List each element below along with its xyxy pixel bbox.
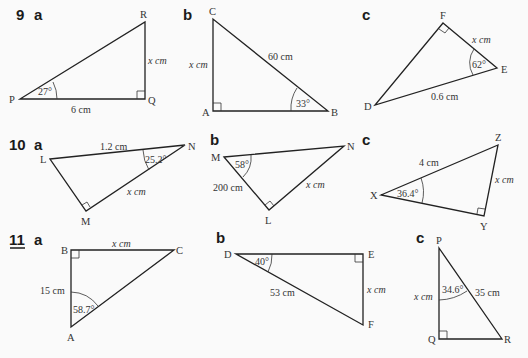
triangle-10a: 25.2° L N M 1.2 cm x cm — [40, 141, 196, 227]
side-label-PQ: x cm — [413, 291, 433, 302]
angle-arc — [421, 178, 423, 203]
side-label-LN: 1.2 cm — [100, 141, 127, 152]
vertex-label-P: P — [9, 94, 15, 105]
vertex-label-B: B — [61, 245, 68, 256]
angle-label: 36.4° — [397, 188, 419, 199]
vertex-label-Q: Q — [148, 95, 156, 106]
side-label-AC: x cm — [188, 59, 208, 70]
side-label-DE: 0.6 cm — [431, 91, 458, 102]
side-label-EF: x cm — [366, 284, 386, 295]
triangle-9c: 62° F E D 0.6 cm x cm — [364, 10, 507, 112]
vertex-label-D: D — [224, 249, 232, 260]
part-label-9b: b — [183, 6, 192, 23]
question-number-11: 11 — [9, 231, 25, 248]
part-label-10a: a — [34, 136, 43, 153]
vertex-label-E: E — [501, 64, 507, 75]
right-angle-marker — [477, 208, 485, 214]
vertex-label-D: D — [364, 101, 372, 112]
vertex-label-X: X — [370, 190, 378, 201]
vertex-label-F: F — [368, 319, 374, 330]
angle-label: 62° — [472, 59, 486, 70]
part-label-11c: c — [416, 229, 424, 246]
triangle-9a: 27° P Q R 6 cm x cm — [9, 9, 167, 115]
vertex-label-R: R — [140, 9, 147, 20]
vertex-label-R: R — [504, 334, 511, 345]
triangle-10b: 58° M N L 200 cm x cm — [211, 141, 355, 226]
angle-label: 34.6° — [442, 284, 464, 295]
side-label-QR: x cm — [147, 55, 167, 66]
vertex-label-L: L — [265, 215, 271, 226]
vertex-label-N: N — [188, 141, 196, 152]
side-label-ML: 200 cm — [213, 182, 243, 193]
question-number-10: 10 — [9, 136, 26, 153]
right-angle-marker — [137, 91, 145, 99]
vertex-label-A: A — [67, 332, 75, 343]
part-label-9a: a — [34, 6, 43, 23]
exercise-sheet: 9 a 27° P Q R 6 cm x cm b 33° C A B 60 c… — [0, 0, 528, 358]
angle-label: 33° — [296, 98, 310, 109]
side-label-PR: 35 cm — [475, 287, 500, 298]
vertex-label-Y: Y — [480, 221, 488, 232]
part-label-9c: c — [362, 6, 370, 23]
vertex-label-M: M — [81, 216, 91, 227]
side-label-YZ: x cm — [494, 174, 514, 185]
side-label-DF: 53 cm — [270, 287, 295, 298]
triangle-10c: 36.4° X Z Y 4 cm x cm — [370, 132, 514, 232]
vertex-label-L: L — [40, 154, 46, 165]
side-label-EF: x cm — [471, 34, 491, 45]
vertex-label-P: P — [436, 235, 442, 246]
triangle-9b-edges — [213, 19, 328, 111]
triangle-10b-edges — [224, 146, 344, 210]
side-label-XZ: 4 cm — [419, 157, 439, 168]
triangle-11a-edges — [71, 250, 174, 327]
vertex-label-E: E — [368, 249, 374, 260]
side-label-AB: 15 cm — [40, 285, 65, 296]
right-angle-marker — [439, 28, 449, 33]
side-label-BC: x cm — [111, 238, 131, 249]
angle-label: 58° — [235, 159, 249, 170]
vertex-label-Z: Z — [495, 132, 501, 143]
angle-arc — [53, 82, 57, 99]
vertex-label-B: B — [331, 107, 338, 118]
triangle-11a: 58.7° B C A 15 cm x cm — [40, 238, 183, 343]
angle-label: 58.7° — [73, 304, 95, 315]
vertex-label-A: A — [202, 107, 210, 118]
triangle-9b: 33° C A B 60 cm x cm — [188, 6, 338, 118]
triangle-11b: 40° D E F 53 cm x cm — [224, 249, 386, 330]
part-label-11a: a — [34, 231, 43, 248]
side-label-BC: 60 cm — [268, 51, 293, 62]
part-label-10b: b — [210, 131, 219, 148]
vertex-label-M: M — [211, 152, 221, 163]
part-label-10c: c — [362, 131, 370, 148]
side-label-PQ: 6 cm — [71, 104, 91, 115]
vertex-label-Q: Q — [428, 334, 436, 345]
question-number-9: 9 — [16, 6, 24, 23]
side-label-LN: x cm — [305, 179, 325, 190]
right-angle-marker — [213, 103, 221, 111]
angle-label: 40° — [255, 256, 269, 267]
right-angle-marker — [439, 331, 447, 339]
vertex-label-N: N — [347, 141, 355, 152]
vertex-label-C: C — [176, 245, 183, 256]
triangle-10c-edges — [381, 145, 498, 216]
angle-label: 25.2° — [145, 154, 167, 165]
right-angle-marker — [265, 201, 274, 206]
part-label-11b: b — [216, 229, 225, 246]
right-angle-marker — [355, 254, 363, 262]
side-label-MN: x cm — [126, 186, 146, 197]
vertex-label-C: C — [209, 6, 216, 17]
angle-label: 27° — [38, 86, 52, 97]
right-angle-marker — [71, 250, 79, 258]
vertex-label-F: F — [440, 10, 446, 21]
triangle-11c: 34.6° P Q R 35 cm x cm — [413, 235, 511, 345]
